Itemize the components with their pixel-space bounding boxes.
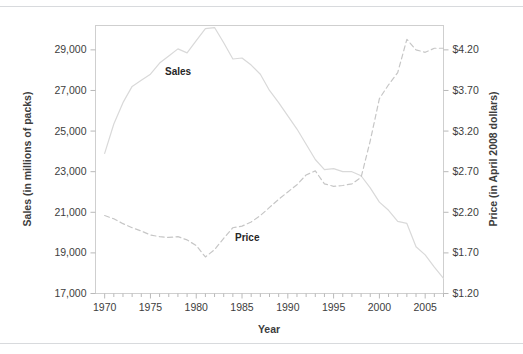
x-tick-label: 1990 — [276, 301, 300, 313]
y-right-tick-label: $1.20 — [453, 287, 479, 299]
x-axis-title: Year — [258, 323, 280, 335]
y-left-axis-tick-labels: 17,00019,00021,00023,00025,00027,00029,0… — [54, 43, 86, 299]
plot-frame — [96, 26, 444, 294]
x-tick-label: 1995 — [322, 301, 346, 313]
series-line-price — [105, 39, 444, 257]
figure-container: 19701975198019851990199520002005 17,0001… — [0, 0, 523, 354]
y-left-tick-label: 19,000 — [54, 246, 86, 258]
x-tick-label: 2005 — [414, 301, 438, 313]
y-left-tick-label: 27,000 — [54, 84, 86, 96]
y-right-axis-tick-labels: $1.20$1.70$2.20$2.70$3.20$3.70$4.20 — [453, 43, 479, 299]
y-right-axis-title: Price (in April 2008 dollars) — [487, 92, 499, 227]
y-right-tick-label: $1.70 — [453, 246, 479, 258]
y-right-tick-label: $3.70 — [453, 84, 479, 96]
x-tick-label: 1975 — [139, 301, 163, 313]
x-tick-label: 1970 — [93, 301, 117, 313]
series-annotation-sales: Sales — [165, 66, 192, 77]
y-left-tick-label: 17,000 — [54, 287, 86, 299]
data-series-group — [105, 28, 444, 279]
x-axis-tick-labels: 19701975198019851990199520002005 — [93, 301, 437, 313]
y-right-tick-label: $4.20 — [453, 43, 479, 55]
series-annotation-price: Price — [235, 232, 260, 243]
x-axis-ticks — [105, 294, 444, 299]
y-right-tick-label: $3.20 — [453, 125, 479, 137]
y-left-tick-label: 25,000 — [54, 125, 86, 137]
y-left-tick-label: 29,000 — [54, 43, 86, 55]
y-right-axis-ticks — [444, 50, 449, 294]
y-right-tick-label: $2.20 — [453, 206, 479, 218]
x-tick-label: 2000 — [368, 301, 392, 313]
series-line-sales — [105, 28, 444, 279]
dual-axis-line-chart: 19701975198019851990199520002005 17,0001… — [0, 0, 523, 354]
y-left-axis-title: Sales (in millions of packs) — [21, 92, 33, 227]
y-left-tick-label: 23,000 — [54, 165, 86, 177]
y-left-tick-label: 21,000 — [54, 206, 86, 218]
x-tick-label: 1985 — [230, 301, 254, 313]
y-right-tick-label: $2.70 — [453, 165, 479, 177]
x-tick-label: 1980 — [185, 301, 209, 313]
y-left-axis-ticks — [91, 50, 96, 294]
